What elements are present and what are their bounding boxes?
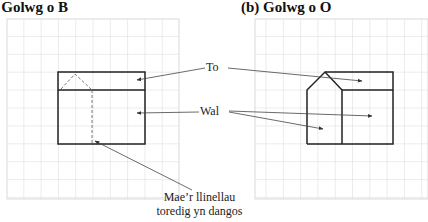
grid-left	[7, 19, 179, 199]
caption-line-2: toredig yn dangos	[132, 204, 267, 218]
wall-label: Wal	[199, 104, 220, 119]
caption-line-1: Mae’r llinellau	[132, 190, 267, 204]
roof-label: To	[205, 60, 220, 75]
dashed-lines-caption: Mae’r llinellau toredig yn dangos	[132, 190, 267, 218]
